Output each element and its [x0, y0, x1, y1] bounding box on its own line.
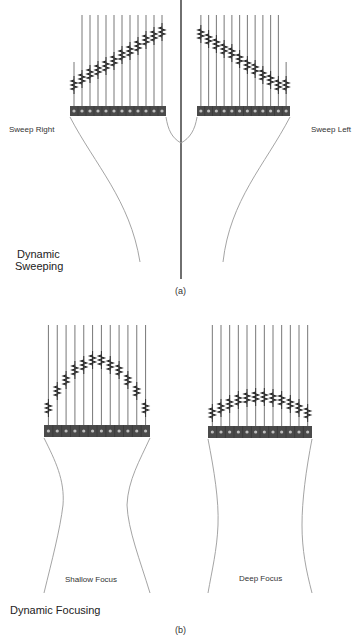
delay-element-icon	[119, 46, 125, 64]
delay-element-icon	[221, 40, 227, 58]
dynamic-sweeping-title-line2: Sweeping	[15, 260, 63, 272]
transducer-element	[271, 430, 274, 433]
delay-element-icon	[209, 404, 215, 422]
delay-element-icon	[198, 25, 204, 43]
delay-element-icon	[227, 395, 233, 413]
delay-element-icon	[283, 76, 289, 94]
transducer-element	[109, 429, 112, 432]
transducer-element	[245, 430, 248, 433]
transducer-element	[207, 109, 210, 112]
delay-element-icon	[143, 31, 149, 49]
delay-element-icon	[103, 57, 109, 75]
dynamic-sweeping-title-line1: Dynamic	[17, 248, 60, 260]
panel-a-caption: (a)	[175, 286, 186, 296]
delay-element-icon	[244, 56, 250, 74]
transducer-element	[112, 109, 115, 112]
delay-element-icon	[252, 60, 258, 78]
delay-element-icon	[45, 399, 51, 417]
delay-element-icon	[260, 66, 266, 84]
delay-element-icon	[151, 27, 157, 45]
delay-element-icon	[253, 388, 259, 406]
transducer-element	[144, 109, 147, 112]
deep-focus-label: Deep Focus	[239, 574, 282, 583]
delay-element-icon	[296, 399, 302, 417]
delay-element-icon	[268, 71, 274, 89]
transducer-array-shallow-focus	[44, 325, 150, 593]
delay-element-icon	[95, 61, 101, 79]
sweep-left-label: Sweep Left	[311, 125, 351, 134]
beam-outline	[70, 117, 140, 262]
transducer-element	[152, 109, 155, 112]
transducer-element	[120, 109, 123, 112]
transducer-element	[136, 109, 139, 112]
transducer-element	[238, 109, 241, 112]
transducer-element	[285, 109, 288, 112]
delay-element-icon	[235, 391, 241, 409]
delay-element-icon	[213, 35, 219, 53]
transducer-element	[96, 109, 99, 112]
delay-element-icon	[135, 37, 141, 55]
transducer-array-sweep-left	[181, 15, 290, 262]
panel-b-dynamic-focusing	[44, 325, 312, 593]
delay-element-icon	[63, 371, 69, 389]
delay-element-icon	[81, 356, 87, 374]
transducer-element	[246, 109, 249, 112]
transducer-element	[160, 109, 163, 112]
delay-element-icon	[275, 76, 281, 94]
delay-element-icon	[90, 351, 96, 369]
beam-outline	[166, 117, 181, 143]
transducer-element	[263, 430, 266, 433]
transducer-array-sweep-right	[70, 15, 181, 262]
beam-outline	[181, 117, 197, 143]
transducer-element	[82, 429, 85, 432]
beam-outline	[44, 438, 63, 593]
transducer-element	[80, 109, 83, 112]
transducer-element	[144, 429, 147, 432]
beam-outline	[208, 439, 218, 593]
delay-element-icon	[111, 52, 117, 70]
shallow-focus-label: Shallow Focus	[65, 575, 117, 584]
dynamic-focusing-title: Dynamic Focusing	[10, 604, 100, 616]
delay-element-icon	[206, 30, 212, 48]
delay-element-icon	[98, 351, 104, 369]
delay-element-icon	[287, 395, 293, 413]
transducer-element	[228, 430, 231, 433]
transducer-element	[199, 109, 202, 112]
delay-element-icon	[218, 399, 224, 417]
beam-outline	[127, 438, 150, 593]
transducer-element	[306, 430, 309, 433]
transducer-element	[211, 430, 214, 433]
transducer-element	[126, 429, 129, 432]
transducer-element	[104, 109, 107, 112]
transducer-element	[64, 429, 67, 432]
transducer-element	[91, 429, 94, 432]
transducer-element	[254, 430, 257, 433]
delay-element-icon	[159, 23, 165, 41]
ultrasound-beamforming-diagram	[0, 0, 357, 644]
transducer-element	[100, 429, 103, 432]
delay-element-icon	[229, 44, 235, 62]
delay-element-icon	[279, 391, 285, 409]
delay-element-icon	[87, 65, 93, 83]
delay-element-icon	[305, 404, 311, 422]
transducer-element	[230, 109, 233, 112]
delay-element-icon	[261, 388, 267, 406]
beam-outline	[302, 439, 312, 593]
transducer-element	[289, 430, 292, 433]
transducer-element	[73, 429, 76, 432]
transducer-element	[297, 430, 300, 433]
transducer-element	[135, 429, 138, 432]
transducer-element	[47, 429, 50, 432]
transducer-element	[269, 109, 272, 112]
transducer-element	[280, 430, 283, 433]
delay-element-icon	[125, 371, 131, 389]
delay-element-icon	[134, 382, 140, 400]
transducer-element	[261, 109, 264, 112]
sweep-right-label: Sweep Right	[9, 125, 54, 134]
delay-element-icon	[237, 50, 243, 68]
delay-element-icon	[270, 389, 276, 407]
delay-element-icon	[107, 356, 113, 374]
panel-a-dynamic-sweeping	[70, 0, 290, 279]
delay-element-icon	[244, 389, 250, 407]
transducer-element	[277, 109, 280, 112]
